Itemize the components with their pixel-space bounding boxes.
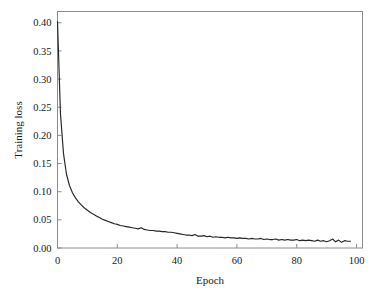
chart-canvas: 0.000.050.100.150.200.250.300.350.40 020… bbox=[0, 0, 380, 299]
y-tick-label: 0.35 bbox=[33, 46, 51, 57]
x-tick-label: 20 bbox=[112, 255, 123, 266]
y-axis-tick-labels: 0.000.050.100.150.200.250.300.350.40 bbox=[33, 17, 51, 253]
y-axis-title: Training loss bbox=[12, 101, 24, 158]
x-axis-title: Epoch bbox=[196, 274, 225, 286]
x-tick-label: 80 bbox=[291, 255, 302, 266]
x-tick-label: 0 bbox=[55, 255, 60, 266]
y-tick-label: 0.15 bbox=[33, 158, 51, 169]
x-tick-label: 60 bbox=[232, 255, 243, 266]
y-tick-label: 0.40 bbox=[33, 17, 51, 28]
y-tick-label: 0.05 bbox=[33, 214, 51, 225]
y-tick-label: 0.30 bbox=[33, 74, 51, 85]
y-tick-label: 0.25 bbox=[33, 102, 51, 113]
training-loss-figure: 0.000.050.100.150.200.250.300.350.40 020… bbox=[0, 0, 380, 299]
y-tick-label: 0.20 bbox=[33, 130, 51, 141]
x-tick-label: 40 bbox=[172, 255, 183, 266]
y-tick-label: 0.00 bbox=[33, 243, 51, 254]
x-tick-label: 100 bbox=[349, 255, 365, 266]
plot-frame bbox=[58, 12, 363, 249]
y-tick-label: 0.10 bbox=[33, 186, 51, 197]
